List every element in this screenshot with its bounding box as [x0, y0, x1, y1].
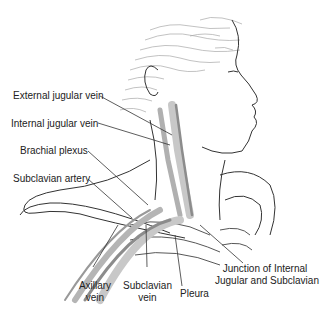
- label-external-jugular-vein: External jugular vein: [13, 90, 104, 102]
- label-subclavian-line1: Subclavian: [120, 280, 175, 292]
- label-subclavian-line2: vein: [120, 292, 175, 304]
- label-axillary-line1: Axillary: [76, 280, 114, 292]
- label-brachial-plexus: Brachial plexus: [20, 145, 88, 157]
- label-junction: Junction of Internal Jugular and Subclav…: [215, 263, 315, 287]
- vessels: [65, 105, 192, 300]
- label-pleura: Pleura: [180, 288, 209, 300]
- shoulder: [20, 160, 275, 238]
- label-axillary-vein: Axillary vein: [76, 280, 114, 304]
- label-subclavian-vein: Subclavian vein: [120, 280, 175, 304]
- label-junction-line1: Junction of Internal: [215, 263, 315, 275]
- label-subclavian-artery: Subclavian artery: [13, 173, 90, 185]
- label-junction-line2: Jugular and Subclavian: [215, 275, 315, 287]
- hair: [120, 17, 242, 112]
- label-internal-jugular-vein: Internal jugular vein: [11, 118, 98, 130]
- label-axillary-line2: vein: [76, 292, 114, 304]
